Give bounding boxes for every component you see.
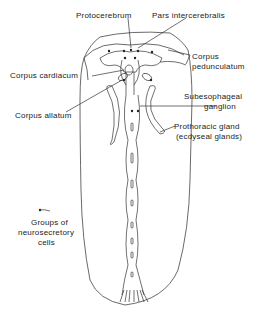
- legend-line-3: cells: [38, 238, 55, 247]
- label-subesophageal-1: Subesophageal: [184, 92, 242, 101]
- prothoracic-gland-left: [107, 86, 120, 145]
- legend-line-2: neurosecretory: [18, 228, 74, 237]
- prothoracic-gland-right: [146, 86, 165, 134]
- label-corpus-cardiacum: Corpus cardiacum: [10, 71, 78, 80]
- label-prothoracic-gland-1: Prothoracic gland: [174, 122, 240, 131]
- label-corpus-pedunculatum-1: Corpus: [192, 52, 219, 61]
- label-corpus-allatum: Corpus allatum: [15, 111, 72, 120]
- terminal-nerves: [120, 290, 148, 302]
- legend-line-1: Groups of: [31, 218, 68, 227]
- label-subesophageal-2: ganglion: [204, 102, 236, 111]
- label-protocerebrum: Protocerebrum: [76, 11, 132, 20]
- insect-neuroendocrine-diagram: [0, 0, 263, 314]
- protocerebrum-lobes: [100, 51, 162, 72]
- label-prothoracic-gland-2: (ecdyseal glands): [176, 132, 242, 141]
- label-pars-intercerebralis: Pars intercerebralis: [152, 11, 225, 20]
- label-corpus-pedunculatum-2: pedunculatum: [192, 62, 245, 71]
